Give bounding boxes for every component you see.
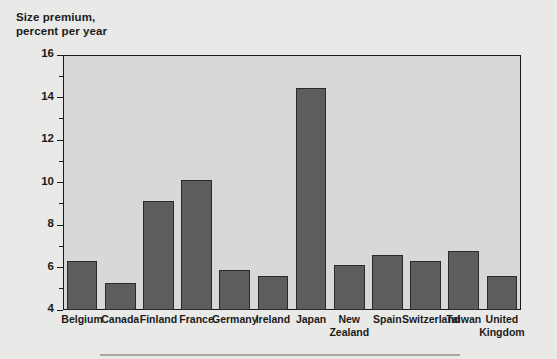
y-axis-title-line-2: percent per year <box>16 24 107 38</box>
y-axis-tick-label: 8 <box>48 217 54 229</box>
bar-series <box>63 55 521 310</box>
bar <box>67 261 98 310</box>
y-axis-tick-label: 4 <box>48 302 54 314</box>
bar <box>334 265 365 310</box>
bar <box>487 276 518 310</box>
bar <box>410 261 441 310</box>
bar <box>448 251 479 311</box>
caption-divider <box>100 354 460 356</box>
y-axis-title-line-1: Size premium, <box>16 10 107 24</box>
bar <box>258 276 289 310</box>
y-axis-tick-label: 16 <box>41 47 54 59</box>
y-axis-tick-label: 14 <box>41 90 54 102</box>
y-axis-tick-label: 10 <box>41 175 54 187</box>
bar <box>372 255 403 310</box>
figure-canvas: Size premium, percent per year 468101214… <box>0 0 557 359</box>
bar <box>181 180 212 310</box>
y-axis-tick-label: 12 <box>41 132 54 144</box>
y-axis-title: Size premium, percent per year <box>16 10 107 38</box>
x-axis-label: United Kingdom <box>478 313 525 338</box>
y-axis-tick-label: 6 <box>48 260 54 272</box>
bar <box>143 201 174 310</box>
x-axis-labels: BelgiumCanadaFinlandFranceGermanyIreland… <box>63 313 521 353</box>
bar <box>219 270 250 310</box>
bar <box>105 283 136 310</box>
bar <box>296 88 327 310</box>
